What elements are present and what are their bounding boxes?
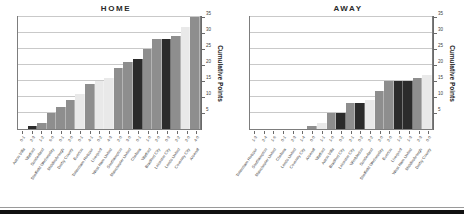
x-axis-score-label: 1-3 [251,135,258,143]
x-axis-score-label: 0-2 [357,135,364,143]
chart-title-away: AWAY [232,4,464,13]
y-axis-tick [434,113,437,114]
x-axis-score-label: 0-2 [338,135,345,143]
bar [403,81,413,129]
y-axis-tick [202,49,205,50]
y-axis-tick-label: 15 [206,75,211,80]
bar [75,94,85,129]
x-axis-score-label: 2-3 [415,135,422,143]
y-axis-title-label-home: Cumulative Points [217,45,224,102]
x-axis-score-label: 2-0 [386,135,393,143]
bar [162,39,172,129]
bar [413,78,423,129]
x-axis-score-label: 2-0 [154,135,161,143]
x-axis-label: 2-0Everton [385,131,395,199]
x-axis-label: 1-1Watford [317,131,327,199]
y-axis-tick [202,65,205,66]
y-axis-tick-label: 5 [438,107,441,112]
y-axis-tick [434,17,437,18]
x-axis-tick [22,131,23,134]
x-axis-tick [283,131,284,134]
bar [104,78,114,129]
x-axis-score-label: 0-1 [280,135,287,143]
x-axis-label: 3-0Manchester United [124,131,134,199]
x-axis-score-label: 4-3 [106,135,113,143]
y-axis-tick [202,113,205,114]
x-axis-tick [119,131,120,134]
x-axis-tick [351,131,352,134]
x-axis-score-label: 2-0 [183,135,190,143]
y-axis-tick-label: 20 [438,59,443,64]
x-axis-tick [312,131,313,134]
x-axis-score-label: 4-0 [193,135,200,143]
figure-root: HOME 5101520253035 Cumulative Points 0-1… [0,0,464,214]
x-axis-score-label: 1-3 [406,135,413,143]
x-axis-score-label: 2-0 [376,135,383,143]
x-axis-score-label: 2-4 [260,135,267,143]
footer-divider-light [0,207,464,208]
x-axis-tick [148,131,149,134]
x-axis-tick [177,131,178,134]
x-axis-label: 1-4Coventry City [297,131,307,199]
bar [152,39,162,129]
y-axis-tick-label: 35 [438,11,443,16]
y-axis-tick [434,65,437,66]
y-axis-tick [202,97,205,98]
x-axis-tick [196,131,197,134]
bar [56,107,66,129]
x-axis-label: 0-1Aston Villa [17,131,27,199]
x-axis-score-label: 2-0 [67,135,74,143]
x-axis-label: 0-0Derby County [423,131,433,199]
x-axis-tick [322,131,323,134]
y-axis-tick-label: 20 [206,59,211,64]
x-axis-score-label: 0-2 [96,135,103,143]
bar [365,100,375,129]
x-axis-score-label: 1-6 [270,135,277,143]
plot-area-home [17,16,201,130]
bar [85,84,95,129]
y-axis-tick-label: 25 [438,43,443,48]
x-axis-tick [370,131,371,134]
x-axis-score-label: 1-0 [144,135,151,143]
bar [317,123,327,129]
y-axis-tick-label: 15 [438,75,443,80]
bar [28,126,38,129]
x-axis-label: 4-1Tottenham Hotspur [85,131,95,199]
bar [171,36,181,129]
x-axis-tick [41,131,42,134]
y-axis-tick [434,49,437,50]
chart-panels: HOME 5101520253035 Cumulative Points 0-1… [0,0,464,200]
x-axis-labels-home: 0-1Aston Villa2-3Watford1-2Sunderland6-0… [17,131,201,199]
y-axis-tick [434,33,437,34]
x-axis-score-label: 0-0 [309,135,316,143]
x-axis-tick [80,131,81,134]
x-axis-tick [90,131,91,134]
x-axis-tick [273,131,274,134]
y-axis-tick-label: 10 [438,91,443,96]
x-axis-tick [331,131,332,134]
y-axis-tick [434,81,437,82]
x-axis-label: 1-6Manchester United [268,131,278,199]
x-axis-score-label: 0-1 [77,135,84,143]
x-axis-score-label: 1-2 [396,135,403,143]
x-axis-label: 2-0Derby County [65,131,75,199]
x-axis-score-label: 1-1 [318,135,325,143]
bar [190,17,200,129]
bar [307,126,317,129]
panel-away: AWAY 5101520253035 Cumulative Points 1-3… [232,0,464,200]
x-axis-score-label: 4-1 [86,135,93,143]
plot-area-away [249,16,433,130]
y-axis-title-home: Cumulative Points [214,16,226,130]
x-axis-score-label: 0-3 [164,135,171,143]
x-axis-tick [428,131,429,134]
bar [181,27,191,129]
chart-title-home: HOME [0,4,232,13]
x-axis-score-label: 2-0 [115,135,122,143]
x-axis-tick [293,131,294,134]
x-axis-score-label: 0-0 [425,135,432,143]
y-axis-tick-label: 30 [206,27,211,32]
x-axis-score-label: 1-4 [299,135,306,143]
x-axis-team-label: Aston Villa [11,147,26,165]
y-axis-tick [434,97,437,98]
x-axis-tick [360,131,361,134]
